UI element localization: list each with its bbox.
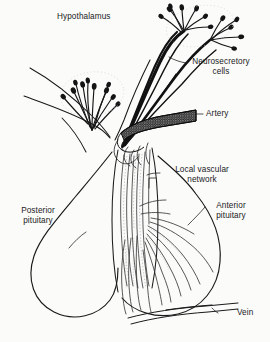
leader-posterior — [69, 232, 86, 248]
artery-vessel[interactable] — [117, 110, 196, 152]
label-artery: Artery — [206, 109, 228, 119]
label-neurosecretory-line1: Neurosecretory — [192, 57, 249, 66]
label-posterior-line2: pituitary — [23, 216, 53, 225]
posterior-pituitary-lobe[interactable] — [31, 152, 118, 317]
leader-local-vascular-2 — [149, 178, 156, 188]
label-vein: Vein — [237, 308, 253, 318]
label-neurosecretory-line2: cells — [213, 67, 230, 76]
label-posterior-line1: Posterior — [21, 206, 55, 215]
label-posterior-pituitary: Posteriorpituitary — [9, 206, 67, 225]
label-local-vascular-network: Local vascularnetwork — [163, 165, 241, 184]
label-local-vascular-line1: Local vascular — [175, 165, 229, 174]
label-hypothalamus: Hypothalamus — [57, 12, 111, 22]
label-anterior-line2: pituitary — [216, 211, 246, 220]
pituitary-diagram: Hypothalamus Neurosecretorycells Artery … — [0, 0, 270, 342]
leader-vein — [212, 308, 218, 313]
label-anterior-line1: Anterior — [216, 201, 245, 210]
secondary-capillary-plexus — [122, 200, 213, 314]
vein-vessel[interactable] — [128, 303, 238, 324]
label-anterior-pituitary: Anteriorpituitary — [203, 201, 259, 220]
label-neurosecretory-cells: Neurosecretorycells — [177, 57, 265, 76]
label-local-vascular-line2: network — [187, 175, 216, 184]
